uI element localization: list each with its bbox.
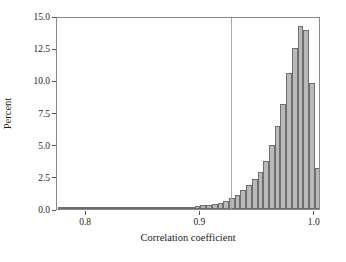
y-axis-tick-label: 2.5 [38,173,50,183]
histogram-figure: Percent 0.02.55.07.510.012.515.0 0.80.91… [0,0,346,262]
plot-area [56,17,320,210]
x-axis-title: Correlation coefficient [56,232,320,243]
y-axis-tick-label: 7.5 [38,109,50,119]
y-axis-tick-label: 12.5 [33,44,50,54]
y-axis-tick-label: 10.0 [33,76,50,86]
x-axis-tick [85,211,86,215]
vertical-reference-line [231,18,232,209]
x-axis-tick-label: 1.0 [308,217,320,227]
x-axis-tick [313,211,314,215]
y-axis-tick-label: 15.0 [33,12,50,22]
x-axis-tick-label: 0.8 [79,217,91,227]
x-axis-scale: 0.80.91.0 [56,211,320,233]
x-axis-tick [199,211,200,215]
y-axis-tick-label: 0.0 [38,205,50,215]
y-axis-tick-label: 5.0 [38,141,50,151]
histogram-bar [315,168,320,209]
y-axis-scale: 0.02.55.07.510.012.515.0 [0,17,56,210]
x-axis-tick-label: 0.9 [193,217,205,227]
